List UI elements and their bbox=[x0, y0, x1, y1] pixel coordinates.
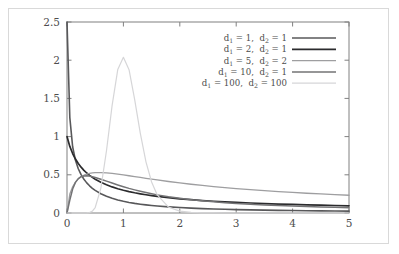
curve-2-1 bbox=[67, 137, 349, 206]
legend-label: d1 = 100, d2 = 100 bbox=[202, 78, 287, 89]
x-tick-label: 0 bbox=[64, 217, 71, 229]
curve-10-1 bbox=[67, 176, 349, 213]
plot-frame bbox=[67, 22, 349, 213]
x-tick-label: 3 bbox=[233, 217, 240, 229]
y-tick-label: 1.5 bbox=[43, 92, 60, 104]
y-tick-label: 0.5 bbox=[43, 168, 60, 180]
x-axis-tick-labels: 012345 bbox=[64, 217, 353, 229]
y-axis-tick-labels: 00.511.522.5 bbox=[43, 16, 60, 219]
y-tick-label: 2 bbox=[53, 54, 60, 66]
chart-legend: d1 = 1, d2 = 1d1 = 2, d2 = 1d1 = 5, d2 =… bbox=[202, 33, 336, 89]
x-tick-label: 1 bbox=[120, 217, 127, 229]
f-distribution-plot: 012345 00.511.522.5 d1 = 1, d2 = 1d1 = 2… bbox=[0, 0, 399, 254]
legend-label: d1 = 10, d2 = 1 bbox=[218, 67, 287, 78]
y-tick-label: 2.5 bbox=[43, 16, 60, 28]
curve-100-100 bbox=[67, 57, 349, 213]
data-curves bbox=[67, 22, 349, 213]
x-tick-label: 5 bbox=[346, 217, 353, 229]
x-tick-label: 2 bbox=[176, 217, 183, 229]
x-axis-ticks bbox=[67, 22, 349, 213]
y-axis-ticks bbox=[67, 22, 349, 213]
x-tick-label: 4 bbox=[289, 217, 296, 229]
chart-figure: 012345 00.511.522.5 d1 = 1, d2 = 1d1 = 2… bbox=[0, 0, 399, 254]
y-tick-label: 1 bbox=[53, 130, 60, 142]
legend-label: d1 = 5, d2 = 2 bbox=[224, 56, 287, 67]
legend-label: d1 = 2, d2 = 1 bbox=[224, 44, 287, 55]
y-tick-label: 0 bbox=[53, 207, 60, 219]
legend-label: d1 = 1, d2 = 1 bbox=[224, 33, 287, 44]
